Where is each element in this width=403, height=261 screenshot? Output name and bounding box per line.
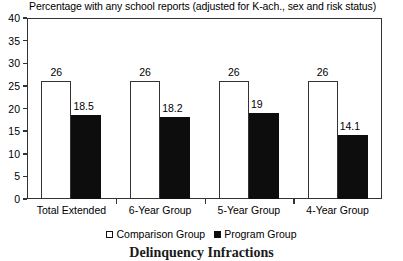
x-axis-category-label: 4-Year Group xyxy=(306,203,369,217)
y-axis-tick-label: 40 xyxy=(8,13,23,23)
legend-item-label: Program Group xyxy=(224,228,296,241)
y-axis-tick-label: 20 xyxy=(8,104,23,114)
x-axis-tick-mark xyxy=(116,199,118,204)
bar-comparison xyxy=(41,81,71,199)
x-axis-tick-mark xyxy=(293,199,295,204)
bar-comparison xyxy=(308,81,338,199)
y-axis-tick-label: 25 xyxy=(8,81,23,91)
y-axis-tick-label: 35 xyxy=(8,36,23,46)
bar-program xyxy=(160,117,190,199)
bar-value-label: 26 xyxy=(51,67,63,78)
bar-program xyxy=(249,113,279,199)
x-axis-category-label: 5-Year Group xyxy=(218,203,281,217)
legend-item: Comparison Group xyxy=(106,228,205,241)
y-axis-tick-label: 30 xyxy=(8,58,23,68)
bar-value-label: 26 xyxy=(139,67,151,78)
bar-value-label: 18.2 xyxy=(162,103,182,114)
y-axis-tick-label: 10 xyxy=(8,149,23,159)
chart-title: Percentage with any school reports (adju… xyxy=(29,0,376,13)
bar-value-label: 18.5 xyxy=(73,101,93,112)
x-axis-category-label: 6-Year Group xyxy=(129,203,192,217)
chart-caption: Delinquency Infractions xyxy=(0,245,403,261)
x-axis: Total Extended6-Year Group5-Year Group4-… xyxy=(27,203,382,219)
legend-item: Program Group xyxy=(214,228,296,241)
bar-group: 2618.5 xyxy=(41,18,101,199)
bar-value-label: 26 xyxy=(228,67,240,78)
bar-value-label: 14.1 xyxy=(340,121,360,132)
filled-square-icon xyxy=(214,231,221,238)
bar-group: 2614.1 xyxy=(308,18,368,199)
bar-value-label: 26 xyxy=(317,67,329,78)
bar-comparison xyxy=(130,81,160,199)
legend-item-label: Comparison Group xyxy=(116,228,205,241)
chart-legend: Comparison GroupProgram Group xyxy=(0,228,403,241)
bar-chart: Percentage with any school reports (adju… xyxy=(0,0,403,261)
bar-value-label: 19 xyxy=(251,99,263,110)
y-axis: 4035302520151050 xyxy=(0,18,27,199)
x-axis-category-label: Total Extended xyxy=(37,203,106,217)
y-axis-tick-label: 15 xyxy=(8,126,23,136)
bar-group: 2618.2 xyxy=(130,18,190,199)
bars-layer: 2618.52618.226192614.1 xyxy=(27,18,382,199)
x-axis-tick-mark xyxy=(205,199,207,204)
bar-program xyxy=(71,115,101,199)
bar-comparison xyxy=(219,81,249,199)
hollow-square-icon xyxy=(106,231,113,238)
y-axis-tick-label: 5 xyxy=(14,171,23,181)
y-axis-tick-label: 0 xyxy=(14,194,23,204)
bar-program xyxy=(338,135,368,199)
bar-group: 2619 xyxy=(219,18,279,199)
